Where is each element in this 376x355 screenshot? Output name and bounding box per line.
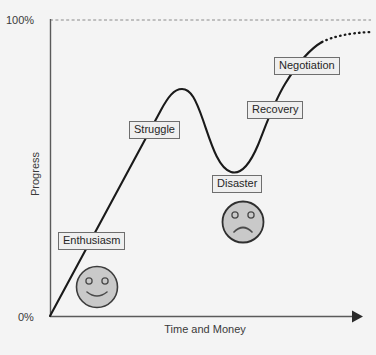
chart-canvas (0, 0, 376, 355)
y-axis-tick-0-percent: 0% (18, 311, 34, 323)
progress-curve-projection (322, 32, 370, 42)
happy-face-icon (77, 267, 118, 308)
stage-label-recovery: Recovery (247, 101, 303, 119)
stage-label-negotiation: Negotiation (274, 57, 340, 75)
project-progress-chart: 100% 0% Progress Time and Money Enthusia… (0, 0, 376, 355)
x-axis-title: Time and Money (140, 323, 270, 335)
y-axis-title: Progress (29, 134, 41, 214)
stage-label-disaster: Disaster (212, 175, 262, 193)
stage-label-enthusiasm: Enthusiasm (58, 232, 125, 250)
stage-label-struggle: Struggle (129, 121, 180, 139)
sad-face-icon (223, 202, 264, 243)
y-axis-tick-100-percent: 100% (6, 14, 34, 26)
x-axis-arrow-icon (352, 311, 363, 323)
